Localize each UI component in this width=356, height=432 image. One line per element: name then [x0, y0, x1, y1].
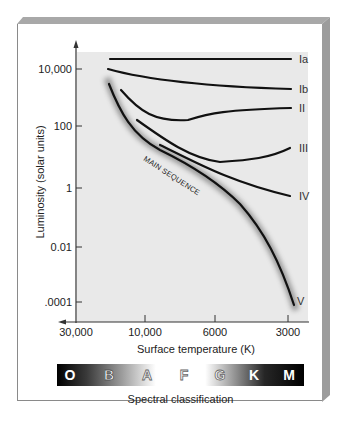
- spectral-class-a: A: [137, 364, 157, 386]
- label-ii: II: [299, 102, 305, 114]
- y-tick-label: 10,000: [38, 63, 72, 75]
- x-tick-label: 30,000: [59, 326, 93, 338]
- label-iii: III: [299, 142, 308, 154]
- y-tick-label: .0001: [44, 296, 72, 308]
- x-tick-label: 3000: [276, 326, 300, 338]
- y-tick-label: 100: [54, 120, 72, 132]
- label-ib: Ib: [299, 83, 308, 95]
- y-axis-arrow-icon: [74, 40, 79, 48]
- spectral-classification-bar: O B A F G K M: [57, 364, 304, 386]
- spectral-class-b: B: [99, 364, 119, 386]
- y-tick-label: 0.01: [51, 241, 72, 253]
- label-ia: Ia: [299, 53, 309, 65]
- x-axis-arrow-icon: [58, 320, 66, 325]
- spectral-class-o: O: [60, 364, 80, 386]
- label-v: V: [297, 295, 305, 307]
- x-tick-label: 10,000: [128, 326, 162, 338]
- spectral-class-m: M: [279, 364, 299, 386]
- x-axis-label: Surface temperature (K): [76, 343, 316, 355]
- y-axis-label: Luminosity (solar units): [34, 102, 46, 262]
- spectral-class-g: G: [210, 364, 230, 386]
- x-tick-label: 6000: [203, 326, 227, 338]
- spectral-class-f: F: [174, 364, 194, 386]
- y-tick-label: 1: [66, 182, 72, 194]
- spectral-caption: Spectral classification: [57, 393, 304, 405]
- spectral-class-k: K: [244, 364, 264, 386]
- label-iv: IV: [299, 190, 310, 202]
